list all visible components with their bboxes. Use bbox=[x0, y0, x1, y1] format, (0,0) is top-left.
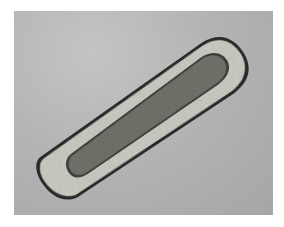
specimen-body bbox=[25, 27, 260, 210]
specimen-illustration bbox=[14, 11, 273, 215]
micrograph-photo bbox=[14, 11, 273, 215]
inner-core bbox=[59, 50, 234, 179]
